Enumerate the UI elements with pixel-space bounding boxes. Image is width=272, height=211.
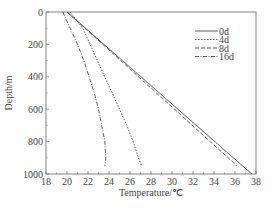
y-tick-label: 800 [28, 136, 43, 147]
y-tick-label: 0 [38, 7, 43, 18]
y-tick-label: 400 [28, 71, 43, 82]
y-axis-title: Depth/m [3, 75, 14, 110]
depth-temperature-chart: 182022242628303234363802004006008001000T… [0, 0, 272, 211]
x-tick-label: 20 [62, 176, 72, 187]
x-tick-label: 22 [83, 176, 93, 187]
y-tick-label: 200 [28, 39, 43, 50]
legend-label-16d: 16d [219, 51, 234, 62]
x-tick-label: 32 [188, 176, 198, 187]
x-tick-label: 24 [104, 176, 114, 187]
x-axis-title: Temperature/℃ [119, 187, 183, 198]
y-tick-label: 1000 [23, 169, 43, 180]
x-tick-label: 30 [167, 176, 177, 187]
x-tick-label: 34 [209, 176, 219, 187]
y-tick-label: 600 [28, 104, 43, 115]
x-tick-label: 38 [251, 176, 261, 187]
x-tick-label: 36 [230, 176, 240, 187]
series-line-16d [63, 12, 106, 166]
x-tick-label: 28 [146, 176, 156, 187]
series-line-4d [70, 12, 141, 166]
series-line-8d [67, 12, 237, 166]
x-tick-label: 26 [125, 176, 135, 187]
